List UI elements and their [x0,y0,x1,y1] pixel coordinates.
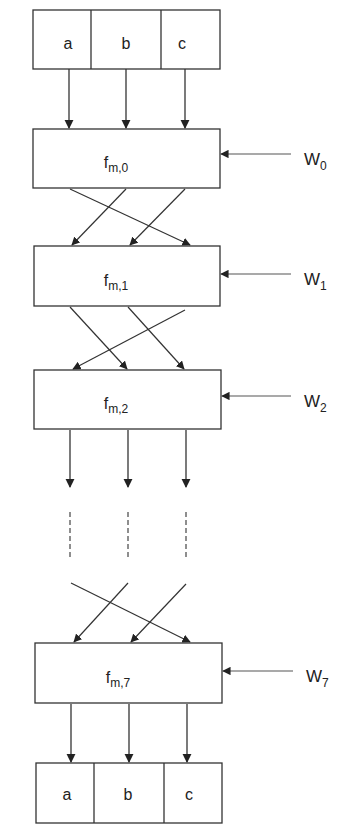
output-cell-b: b [124,786,133,803]
permutation-0-1 [70,189,190,245]
stage-f-m1: fm,1 W1 [34,246,327,306]
input-cell-b: b [122,35,131,52]
output-cell-a: a [63,786,72,803]
input-cell-c: c [178,35,186,52]
svg-text:W0: W0 [304,150,327,173]
svg-text:W7: W7 [306,667,329,690]
svg-text:fm,2: fm,2 [104,395,129,416]
permutation-1-2 [70,307,185,369]
svg-text:W2: W2 [304,392,327,415]
stage2-output-arrows [70,430,186,487]
stage-f-m0: fm,0 W0 [33,129,327,188]
cipher-round-diagram: a b c fm,0 W0 fm,1 W1 fm,2 W2 [0,0,355,835]
output-registers: a b c [36,763,222,823]
stage-f-m7: fm,7 W7 [35,643,329,703]
ellipsis-dashes [70,512,186,558]
output-cell-c: c [185,786,193,803]
svg-text:fm,7: fm,7 [106,669,131,690]
input-registers: a b c [33,10,220,69]
stage-f-m2: fm,2 W2 [34,370,327,429]
input-cell-a: a [64,35,73,52]
permutation-6-7 [71,583,190,642]
svg-text:fm,0: fm,0 [104,154,129,175]
svg-text:W1: W1 [304,270,327,293]
output-arrows [71,704,187,762]
input-arrows [69,69,185,128]
svg-text:fm,1: fm,1 [104,272,129,293]
